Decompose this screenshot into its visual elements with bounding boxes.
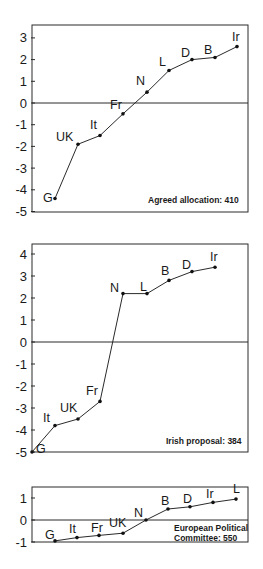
point-label-fr: Fr: [91, 521, 103, 535]
point-label-it: It: [69, 522, 76, 536]
chart-annotation: European Political: [174, 523, 248, 533]
point-label-ir: Ir: [206, 487, 214, 501]
point-label-uk: UK: [109, 516, 127, 530]
data-point: [234, 497, 238, 501]
y-tick-label: 1: [20, 491, 27, 506]
data-point: [144, 518, 148, 522]
data-point: [75, 536, 79, 540]
y-tick-label: -1: [15, 535, 27, 550]
data-point: [121, 531, 125, 535]
point-label-g: G: [45, 528, 55, 542]
chart-annotation: Committee: 550: [174, 533, 238, 543]
y-tick-label: 0: [20, 513, 27, 528]
point-label-b: B: [161, 494, 169, 508]
chart-svg: 10-1GItFrUKNBDIrLEuropean PoliticalCommi…: [0, 0, 263, 569]
point-label-d: D: [183, 492, 192, 506]
point-label-n: N: [134, 506, 143, 520]
point-label-l: L: [233, 482, 240, 496]
chart-european-political-committee: 10-1GItFrUKNBDIrLEuropean PoliticalCommi…: [0, 0, 263, 569]
